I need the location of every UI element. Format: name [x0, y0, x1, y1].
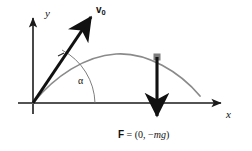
projectile-motion-figure: y x v0 α F = (0, −mg) [0, 0, 252, 151]
y-axis-label: y [45, 8, 50, 19]
force-equation-close: ) [166, 129, 169, 140]
angle-tick-mark [58, 53, 64, 56]
initial-velocity-subscript: 0 [102, 8, 106, 17]
force-equation-operator: = (0, − [124, 129, 154, 140]
trajectory-curve [33, 54, 200, 103]
force-equation-label: F = (0, −mg) [118, 130, 169, 140]
initial-velocity-label: v0 [96, 5, 106, 17]
launch-angle-label: α [78, 76, 83, 86]
x-axis-label: x [226, 109, 231, 120]
force-magnitude-term: mg [154, 129, 166, 140]
initial-velocity-vector [33, 17, 91, 103]
